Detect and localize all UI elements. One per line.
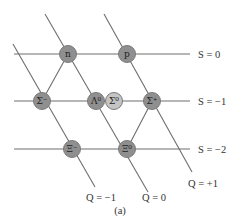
q-minus1-line bbox=[13, 44, 95, 187]
particle-sigma-plus: Σ⁺ bbox=[144, 93, 161, 110]
baryon-octet-diagram: n p Σ⁻ Λ⁰ Σ⁰ Σ⁺ Ξ⁻ Ξ⁰ S = 0 S = −1 S = −… bbox=[0, 0, 244, 224]
particle-symbol: Σ⁰ bbox=[109, 96, 119, 106]
label-q-plus1: Q = +1 bbox=[188, 178, 218, 189]
particle-sigma-zero: Σ⁰ bbox=[106, 93, 123, 110]
label-s-minus2: S = −2 bbox=[198, 144, 226, 155]
label-s0: S = 0 bbox=[198, 49, 220, 60]
particle-symbol: p bbox=[124, 49, 130, 59]
particle-xi-minus: Ξ⁻ bbox=[64, 141, 81, 158]
particle-symbol: Ξ⁰ bbox=[122, 144, 132, 154]
label-q0: Q = 0 bbox=[142, 192, 166, 203]
particle-xi-zero: Ξ⁰ bbox=[119, 141, 136, 158]
particle-symbol: Λ⁰ bbox=[90, 96, 101, 106]
particle-lambda-zero: Λ⁰ bbox=[88, 93, 105, 110]
particle-sigma-minus: Σ⁻ bbox=[34, 93, 51, 110]
label-s-minus1: S = −1 bbox=[198, 96, 226, 107]
label-q-minus1: Q = −1 bbox=[86, 192, 116, 203]
particle-symbol: Ξ⁻ bbox=[66, 144, 77, 154]
particle-symbol: Σ⁺ bbox=[146, 96, 157, 106]
particle-n: n bbox=[60, 46, 77, 63]
particle-symbol: n bbox=[65, 49, 71, 59]
particle-symbol: Σ⁻ bbox=[36, 96, 47, 106]
particle-p: p bbox=[119, 46, 136, 63]
figure-caption: (a) bbox=[114, 205, 126, 217]
